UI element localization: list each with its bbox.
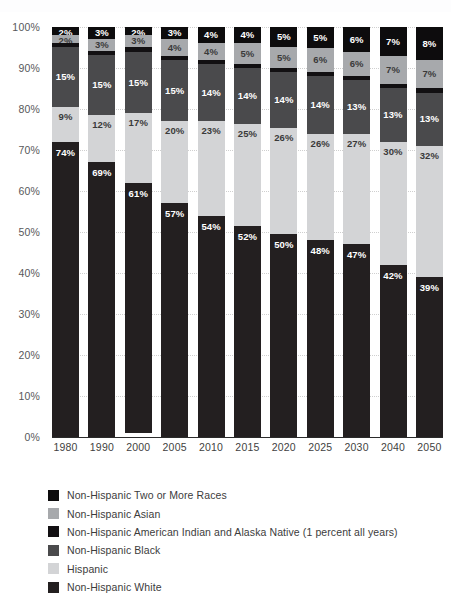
bar-column[interactable]: 3%4%15%20%57% <box>161 27 188 437</box>
bar-segment[interactable]: 32% <box>416 146 443 277</box>
y-axis-tick-label: 20% <box>18 349 40 361</box>
bar-segment[interactable]: 69% <box>88 162 115 437</box>
bar-segment[interactable]: 15% <box>52 47 79 107</box>
bar-segment[interactable]: 6% <box>343 52 370 77</box>
bar-segment[interactable]: 50% <box>270 234 297 437</box>
bar-segment[interactable]: 3% <box>161 27 188 39</box>
bar-column[interactable]: 5%6%14%26%48% <box>307 27 334 437</box>
bar-segment[interactable]: 3% <box>88 27 115 39</box>
bar-segment[interactable]: 48% <box>307 240 334 437</box>
bar-column[interactable]: 4%4%14%23%54% <box>198 27 225 437</box>
bar-column[interactable]: 6%6%13%27%47% <box>343 27 370 437</box>
bar-segment-value-label: 4% <box>240 30 254 40</box>
bar-segment[interactable]: 15% <box>88 55 115 115</box>
bar-segment-value-label: 13% <box>383 110 402 120</box>
bar-segment[interactable]: 4% <box>198 27 225 43</box>
y-axis-tick-label: 80% <box>18 103 40 115</box>
bar-segment[interactable]: 4% <box>198 43 225 59</box>
y-axis-tick-label: 40% <box>18 267 40 279</box>
bar-segment[interactable]: 13% <box>343 80 370 133</box>
bar-column[interactable]: 7%7%13%30%42% <box>380 27 407 437</box>
bar-segment[interactable]: 61% <box>125 183 152 433</box>
bar-segment[interactable]: 52% <box>234 226 261 437</box>
bar-segment[interactable]: 25% <box>234 124 261 226</box>
bar-segment[interactable]: 54% <box>198 216 225 437</box>
y-axis-tick-label: 30% <box>18 308 40 320</box>
bar-segment[interactable]: 39% <box>416 277 443 437</box>
bar-segment[interactable]: 6% <box>307 48 334 73</box>
bar-column[interactable]: 5%5%14%26%50% <box>270 27 297 437</box>
bar-segment[interactable]: 4% <box>161 39 188 55</box>
bar-segment-value-label: 42% <box>383 271 402 281</box>
bar-column[interactable]: 2%3%15%17%61% <box>125 27 152 437</box>
bar-segment[interactable]: 14% <box>234 68 261 125</box>
bar-segment-value-label: 5% <box>313 33 327 43</box>
bar-column[interactable]: 8%7%13%32%39% <box>416 27 443 437</box>
bar-segment[interactable]: 2% <box>52 35 79 43</box>
legend-item[interactable]: Non-Hispanic American Indian and Alaska … <box>48 523 448 541</box>
legend-item-label: Non-Hispanic American Indian and Alaska … <box>67 526 398 538</box>
bar-segment[interactable]: 15% <box>161 60 188 122</box>
bar-segment[interactable]: 14% <box>270 72 297 129</box>
bar-segment[interactable]: 15% <box>125 52 152 114</box>
bar-segment[interactable]: 3% <box>88 39 115 51</box>
bar-segment[interactable]: 7% <box>380 27 407 56</box>
bar-segment-value-label: 39% <box>420 283 439 293</box>
legend-item-label: Non-Hispanic Two or More Races <box>67 489 227 501</box>
legend-item[interactable]: Non-Hispanic White <box>48 578 448 596</box>
legend-item[interactable]: Hispanic <box>48 560 448 578</box>
legend-color-swatch <box>48 582 59 593</box>
bar-segment-value-label: 3% <box>131 36 145 46</box>
bar-segment[interactable]: 5% <box>307 27 334 48</box>
bar-segment-value-label: 7% <box>386 37 400 47</box>
bar-segment[interactable]: 3% <box>125 35 152 47</box>
bar-segment[interactable]: 7% <box>416 60 443 89</box>
bar-segment[interactable]: 20% <box>161 121 188 203</box>
legend-item[interactable]: Non-Hispanic Black <box>48 541 448 559</box>
bar-segment[interactable]: 26% <box>307 134 334 241</box>
bar-segment[interactable]: 6% <box>343 27 370 52</box>
bar-segment[interactable]: 4% <box>234 27 261 43</box>
bar-segment[interactable]: 5% <box>234 43 261 63</box>
bar-segment[interactable]: 9% <box>52 107 79 143</box>
bar-segment[interactable]: 13% <box>380 88 407 141</box>
bar-segment[interactable]: 12% <box>88 115 115 163</box>
bar-segment[interactable]: 27% <box>343 134 370 245</box>
bar-segment[interactable]: 42% <box>380 265 407 437</box>
bar-segment-value-label: 12% <box>92 120 111 130</box>
bar-segment[interactable]: 14% <box>198 64 225 121</box>
y-axis-tick-label: 90% <box>18 62 40 74</box>
bar-column[interactable]: 4%5%14%25%52% <box>234 27 261 437</box>
bar-segment[interactable]: 8% <box>416 27 443 60</box>
bar-segment[interactable]: 30% <box>380 142 407 265</box>
bar-segment[interactable]: 57% <box>161 203 188 437</box>
bar-segment[interactable]: 2% <box>125 27 152 35</box>
bar-segment[interactable]: 74% <box>52 142 79 437</box>
bar-segment-value-label: 13% <box>420 114 439 124</box>
bar-segment-value-label: 25% <box>238 129 257 139</box>
legend-item[interactable]: Non-Hispanic Two or More Races <box>48 486 448 504</box>
bar-column[interactable]: 2%2%15%9%74% <box>52 27 79 437</box>
bar-segment-value-label: 20% <box>165 126 184 136</box>
y-axis-tick-label: 60% <box>18 185 40 197</box>
bar-segment[interactable]: 7% <box>380 56 407 85</box>
bar-segment[interactable]: 14% <box>307 76 334 133</box>
bar-segment[interactable]: 47% <box>343 244 370 437</box>
bar-segment[interactable]: 5% <box>270 47 297 67</box>
bar-segment[interactable]: 26% <box>270 128 297 234</box>
legend-item[interactable]: Non-Hispanic Asian <box>48 504 448 522</box>
bar-segment[interactable]: 23% <box>198 121 225 215</box>
x-axis-tick-label: 2005 <box>161 441 188 459</box>
bar-segment[interactable]: 5% <box>270 27 297 47</box>
bar-segment[interactable]: 2% <box>52 27 79 35</box>
legend-item-label: Hispanic <box>67 563 108 575</box>
bar-column[interactable]: 3%3%15%12%69% <box>88 27 115 437</box>
bar-segment-value-label: 5% <box>277 32 291 42</box>
x-axis-tick-label: 2020 <box>270 441 297 459</box>
bar-segment[interactable]: 13% <box>416 93 443 146</box>
bar-segment-value-label: 23% <box>201 126 220 136</box>
bar-segment-value-label: 7% <box>422 69 436 79</box>
bar-segment[interactable]: 17% <box>125 113 152 183</box>
legend-item-label: Non-Hispanic Black <box>67 544 160 556</box>
bar-segment-value-label: 4% <box>204 30 218 40</box>
